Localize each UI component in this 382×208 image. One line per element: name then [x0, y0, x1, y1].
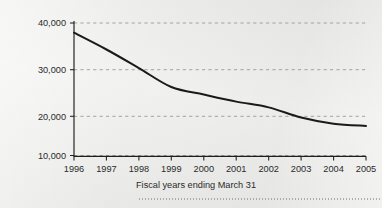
x-axis-ticks — [74, 156, 366, 160]
x-tick-label-1996: 1996 — [64, 164, 84, 174]
x-axis-title: Fiscal years ending March 31 — [136, 180, 256, 190]
y-tick-label-30000: 30,000 — [38, 65, 66, 75]
y-tick-label-20000: 20,000 — [38, 112, 66, 122]
x-tick-label-2005: 2005 — [356, 164, 376, 174]
x-tick-label-1997: 1997 — [96, 164, 116, 174]
y-tick-label-10000: 10,000 — [38, 151, 66, 161]
chart-figure: 40,000 30,000 20,000 10,000 1996 1997 19… — [0, 0, 382, 208]
x-tick-label-2004: 2004 — [323, 164, 343, 174]
y-axis-ticks — [70, 23, 74, 156]
gridlines — [74, 23, 366, 156]
line-chart: 40,000 30,000 20,000 10,000 1996 1997 19… — [0, 0, 382, 208]
y-tick-label-40000: 40,000 — [38, 18, 66, 28]
x-tick-label-2003: 2003 — [291, 164, 311, 174]
x-tick-label-1999: 1999 — [161, 164, 181, 174]
data-series-line — [74, 33, 366, 126]
x-tick-label-2000: 2000 — [194, 164, 214, 174]
x-tick-label-2001: 2001 — [226, 164, 246, 174]
x-tick-label-1998: 1998 — [129, 164, 149, 174]
x-tick-label-2002: 2002 — [258, 164, 278, 174]
y-axis-labels: 40,000 30,000 20,000 10,000 — [38, 18, 66, 161]
x-axis-labels: 1996 1997 1998 1999 2000 2001 2002 2003 … — [64, 164, 376, 174]
plot-area — [74, 18, 366, 157]
